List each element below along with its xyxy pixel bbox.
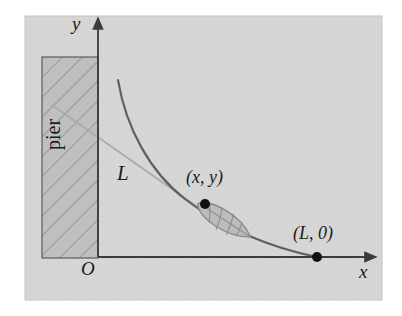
y-axis-label: y — [72, 14, 80, 33]
x-axis-label: x — [359, 262, 367, 281]
figure-canvas: y x O L (x, y) (L, 0) pier — [0, 0, 402, 316]
boat-point-dot — [200, 199, 210, 209]
diagram-svg — [0, 0, 402, 316]
pier-block — [42, 57, 98, 258]
boat-point-label: (x, y) — [186, 168, 223, 186]
pier-label: pier — [43, 119, 63, 150]
end-point-dot — [312, 252, 322, 262]
end-point-label: (L, 0) — [293, 224, 333, 242]
rope-length-label: L — [117, 163, 129, 184]
origin-label: O — [81, 259, 95, 278]
